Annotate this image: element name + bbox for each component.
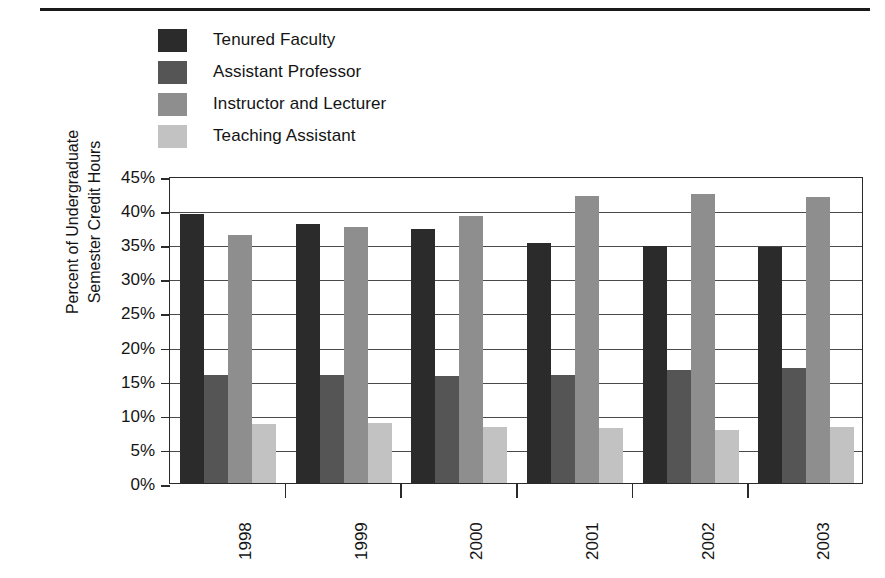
bar[interactable] [368, 423, 392, 483]
bar[interactable] [344, 227, 368, 484]
y-axis-tick-label: 15% [121, 373, 155, 393]
bar[interactable] [320, 375, 344, 483]
plot-area: 45%40%35%30%25%20%15%10%5%0% [169, 177, 863, 484]
y-axis-tick-label: 35% [121, 236, 155, 256]
y-axis-tick-mark [161, 280, 170, 282]
legend-item[interactable]: Instructor and Lecturer [158, 88, 488, 120]
bar[interactable] [228, 235, 252, 483]
legend-item[interactable]: Tenured Faculty [158, 24, 488, 56]
legend-item-label: Teaching Assistant [213, 126, 356, 146]
y-axis-tick-mark [161, 246, 170, 248]
y-axis-tick-mark [161, 451, 170, 453]
y-axis-tick-mark [161, 349, 170, 351]
bar[interactable] [180, 214, 204, 483]
y-axis-title: Percent of Undergraduate Semester Credit… [62, 72, 106, 372]
y-axis-tick-mark [161, 212, 170, 214]
x-axis-tick-mark [516, 484, 518, 498]
bar[interactable] [459, 216, 483, 483]
x-axis-tick-label: 2002 [699, 522, 719, 560]
bar[interactable] [782, 368, 806, 483]
bar-chart-figure: Tenured FacultyAssistant ProfessorInstru… [0, 0, 885, 578]
y-axis-tick-label: 45% [121, 168, 155, 188]
bar[interactable] [806, 197, 830, 483]
legend-item-label: Instructor and Lecturer [213, 94, 386, 114]
y-axis-tick-mark [161, 383, 170, 385]
x-axis-tick-labels: 199819992000200120022003 [169, 500, 863, 570]
bar[interactable] [296, 224, 320, 483]
legend-swatch-icon [158, 125, 187, 148]
bar-group [527, 178, 623, 483]
legend-item[interactable]: Teaching Assistant [158, 120, 488, 152]
bar-group [758, 178, 854, 483]
bar-group [643, 178, 739, 483]
y-axis-title-line-1: Percent of Undergraduate [62, 130, 84, 314]
y-axis-tick-label: 20% [121, 339, 155, 359]
bar[interactable] [691, 194, 715, 483]
y-axis-tick-label: 25% [121, 304, 155, 324]
bar[interactable] [715, 430, 739, 483]
x-axis-tick-mark [747, 484, 749, 498]
legend-swatch-icon [158, 61, 187, 84]
bars-layer [170, 178, 862, 483]
y-axis-tick-mark [161, 178, 170, 180]
y-axis-tick-label: 30% [121, 270, 155, 290]
bar[interactable] [527, 243, 551, 483]
top-horizontal-rule [40, 8, 870, 11]
bar[interactable] [599, 428, 623, 483]
y-axis-tick-mark [161, 314, 170, 316]
x-axis-tick-label: 1999 [352, 522, 372, 560]
y-axis-tick-label: 5% [130, 441, 155, 461]
x-axis-tick-mark [285, 484, 287, 498]
bar[interactable] [758, 247, 782, 483]
legend-swatch-icon [158, 93, 187, 116]
x-axis-tick-label: 2001 [583, 522, 603, 560]
bar[interactable] [575, 196, 599, 483]
bar[interactable] [667, 370, 691, 483]
y-axis-tick-mark [161, 417, 170, 419]
bar[interactable] [252, 424, 276, 483]
bar-group [411, 178, 507, 483]
bar-group [296, 178, 392, 483]
y-axis-tick-label: 0% [130, 475, 155, 495]
legend-item-label: Tenured Faculty [213, 30, 335, 50]
x-axis-tick-mark [632, 484, 634, 498]
y-axis-title-line-2: Semester Credit Hours [84, 141, 106, 304]
bar[interactable] [411, 229, 435, 483]
legend-item[interactable]: Assistant Professor [158, 56, 488, 88]
bar[interactable] [643, 246, 667, 483]
x-axis-tick-marks [169, 484, 863, 498]
x-axis-tick-label: 2000 [467, 522, 487, 560]
bar[interactable] [483, 427, 507, 483]
bar[interactable] [830, 427, 854, 483]
x-axis-tick-mark [400, 484, 402, 498]
bar[interactable] [551, 375, 575, 483]
bar[interactable] [435, 376, 459, 483]
bar-group [180, 178, 276, 483]
y-axis-tick-label: 10% [121, 407, 155, 427]
legend-item-label: Assistant Professor [213, 62, 361, 82]
chart-legend: Tenured FacultyAssistant ProfessorInstru… [158, 24, 488, 152]
x-axis-tick-label: 2003 [814, 522, 834, 560]
bar[interactable] [204, 375, 228, 483]
legend-swatch-icon [158, 29, 187, 52]
y-axis-tick-label: 40% [121, 202, 155, 222]
x-axis-tick-label: 1998 [236, 522, 256, 560]
